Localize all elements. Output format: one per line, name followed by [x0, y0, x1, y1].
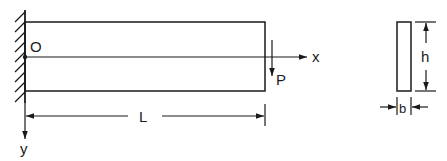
origin-label: O	[30, 38, 42, 55]
origin-point	[23, 55, 27, 59]
x-axis-label: x	[312, 48, 320, 65]
load-label: P	[276, 71, 286, 88]
beam-diagram: O x P y L h b	[0, 0, 447, 161]
width-label: b	[399, 101, 406, 116]
cross-section	[397, 22, 411, 91]
length-label: L	[139, 108, 147, 125]
y-axis-label: y	[20, 140, 28, 157]
height-label: h	[421, 48, 429, 65]
